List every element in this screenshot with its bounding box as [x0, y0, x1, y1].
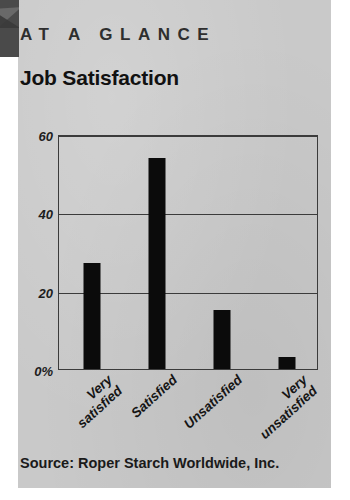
tab-triangle-dark — [0, 14, 19, 28]
y-tick-label-20: 20 — [39, 285, 53, 300]
bar-chart: 0%204060 VerysatisfiedSatisfiedUnsatisfi… — [20, 120, 310, 385]
section-kicker: AT A GLANCE — [20, 25, 216, 45]
category-label-2: Satisfied — [128, 372, 180, 421]
bar-1 — [83, 263, 100, 369]
category-label-line: Unsatisfied — [180, 372, 244, 432]
plot-area: 0%204060 — [58, 135, 318, 370]
gridline-40 — [59, 214, 317, 215]
y-tick-label-0: 0% — [34, 364, 53, 379]
category-label-line: Satisfied — [128, 372, 180, 421]
bar-2 — [148, 158, 165, 370]
page-canvas: AT A GLANCE Job Satisfaction 0%204060 Ve… — [0, 0, 350, 500]
bar-3 — [213, 310, 230, 369]
category-axis-labels: VerysatisfiedSatisfiedUnsatisfiedVeryuns… — [58, 372, 318, 462]
triangle-tab-icon — [0, 0, 19, 57]
source-note: Source: Roper Starch Worldwide, Inc. — [20, 455, 279, 471]
category-label-4: Veryunsatisfied — [247, 372, 320, 442]
gridline-60 — [59, 136, 317, 137]
page-title: Job Satisfaction — [20, 66, 179, 90]
y-tick-label-60: 60 — [39, 129, 53, 144]
category-label-1: Verysatisfied — [64, 372, 125, 431]
bar-4 — [278, 357, 295, 369]
category-label-3: Unsatisfied — [180, 372, 244, 432]
y-tick-label-40: 40 — [39, 207, 53, 222]
